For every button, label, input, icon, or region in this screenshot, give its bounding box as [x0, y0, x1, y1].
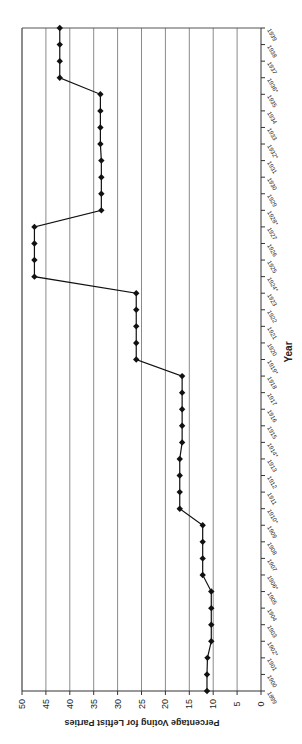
tick-label: 50 — [17, 699, 27, 709]
diamond-marker — [133, 290, 139, 296]
diamond-marker — [57, 75, 63, 81]
diamond-marker — [57, 25, 63, 31]
gridlines — [22, 28, 237, 691]
tick-label: 1902* — [266, 641, 279, 658]
diamond-marker — [179, 373, 185, 379]
diamond-marker — [31, 240, 37, 246]
tick-label: 1929 — [266, 193, 278, 208]
year-axis-ticks: 1899190019011902*1903190419051906*190719… — [261, 28, 280, 706]
tick-label: 1936* — [266, 77, 279, 94]
diamond-marker — [97, 91, 103, 97]
tick-label: 20 — [160, 699, 170, 709]
diamond-marker — [177, 489, 183, 495]
diamond-marker — [97, 141, 103, 147]
tick-label: 1930 — [266, 177, 278, 192]
tick-label: 10 — [208, 699, 218, 709]
tick-label: 40 — [65, 699, 75, 709]
diamond-marker — [204, 688, 210, 694]
tick-label: 1918 — [266, 376, 278, 391]
tick-label: 1926 — [266, 243, 278, 258]
diamond-marker — [133, 340, 139, 346]
tick-label: 1923 — [266, 293, 278, 308]
value-axis-title: Percentage Voting for Leftist Parties — [65, 718, 220, 728]
tick-label: 1917 — [266, 392, 278, 407]
tick-label: 1932* — [266, 144, 279, 161]
tick-label: 1899 — [266, 691, 278, 706]
tick-label: 1931 — [266, 160, 278, 175]
diamond-marker — [31, 224, 37, 230]
diamond-marker — [133, 356, 139, 362]
tick-label: 1901 — [266, 657, 278, 672]
diamond-marker — [57, 58, 63, 64]
series-line — [34, 28, 211, 691]
tick-label: 1935 — [266, 94, 278, 109]
diamond-marker — [98, 191, 104, 197]
tick-label: 1910* — [266, 508, 279, 525]
diamond-marker — [98, 157, 104, 163]
tick-label: 1921 — [266, 326, 278, 341]
tick-label: 25 — [137, 699, 147, 709]
tick-label: 1939 — [266, 28, 278, 43]
diamond-marker — [98, 207, 104, 213]
line-chart: 05101520253035404550 1899190019011902*19… — [0, 0, 302, 744]
tick-label: 1920 — [266, 342, 278, 357]
tick-label: 1925 — [266, 260, 278, 275]
diamond-marker — [97, 124, 103, 130]
tick-label: 1907 — [266, 558, 278, 573]
diamond-marker — [98, 174, 104, 180]
tick-label: 1919* — [266, 359, 279, 376]
diamond-marker — [133, 323, 139, 329]
tick-label: 1928* — [266, 210, 279, 227]
tick-label: 1916 — [266, 409, 278, 424]
tick-label: 15 — [184, 699, 194, 709]
tick-label: 1937 — [266, 61, 278, 76]
tick-label: 1915 — [266, 425, 278, 440]
tick-label: 1909 — [266, 525, 278, 540]
data-series — [31, 25, 214, 694]
diamond-marker — [31, 257, 37, 263]
diamond-marker — [199, 572, 205, 578]
diamond-marker — [31, 273, 37, 279]
tick-label: 1911 — [266, 492, 278, 507]
tick-label: 0 — [256, 701, 266, 706]
tick-label: 1933 — [266, 127, 278, 142]
tick-label: 30 — [113, 699, 123, 709]
diamond-marker — [177, 456, 183, 462]
diamond-marker — [204, 671, 210, 677]
tick-label: 1900 — [266, 674, 278, 689]
tick-label: 35 — [89, 699, 99, 709]
diamond-marker — [97, 108, 103, 114]
tick-label: 1913 — [266, 458, 278, 473]
chart-canvas: 05101520253035404550 1899190019011902*19… — [0, 0, 302, 744]
tick-label: 1906* — [266, 574, 279, 591]
tick-label: 1904 — [266, 608, 278, 623]
tick-label: 1912 — [266, 475, 278, 490]
tick-label: 1908 — [266, 541, 278, 556]
diamond-marker — [179, 423, 185, 429]
tick-label: 1938 — [266, 44, 278, 59]
tick-label: 1934 — [266, 110, 278, 125]
diamond-marker — [133, 307, 139, 313]
diamond-marker — [199, 539, 205, 545]
tick-label: 1922 — [266, 309, 278, 324]
tick-label: 45 — [41, 699, 51, 709]
tick-label: 5 — [232, 701, 242, 706]
value-axis-ticks: 05101520253035404550 — [17, 691, 266, 709]
diamond-marker — [199, 555, 205, 561]
tick-label: 1924* — [266, 276, 279, 293]
diamond-marker — [179, 439, 185, 445]
year-axis-title: Year — [283, 341, 294, 362]
diamond-marker — [177, 472, 183, 478]
tick-label: 1903 — [266, 624, 278, 639]
tick-label: 1927 — [266, 226, 278, 241]
diamond-marker — [179, 389, 185, 395]
tick-label: 1914* — [266, 442, 279, 459]
diamond-marker — [179, 406, 185, 412]
diamond-marker — [57, 41, 63, 47]
diamond-marker — [204, 655, 210, 661]
tick-label: 1905 — [266, 591, 278, 606]
